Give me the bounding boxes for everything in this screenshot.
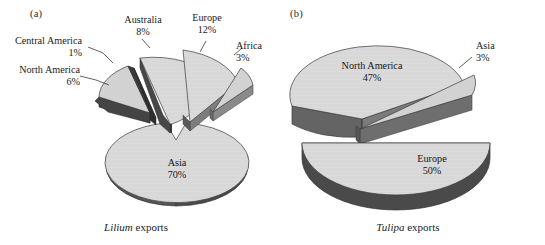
callout-a-central-america: Central America 1% xyxy=(15,35,82,58)
caption-a-species: Lilium xyxy=(104,221,133,233)
leader-line-b-asia xyxy=(459,57,472,68)
caption-b: Tulipa exports xyxy=(272,221,544,233)
callout-a-australia: Australia 8% xyxy=(108,14,178,37)
pie-chart-b xyxy=(272,0,544,245)
callout-a-north-america-region: North America xyxy=(19,64,80,75)
leader-line-central-america xyxy=(88,47,113,63)
caption-b-rest: exports xyxy=(404,221,439,233)
slice-label-a-asia-region: Asia xyxy=(168,157,187,168)
figure-pie-charts: (a) xyxy=(0,0,545,245)
callout-a-europe-region: Europe xyxy=(192,12,221,23)
callout-a-australia-pct: 8% xyxy=(108,26,178,38)
slice-label-a-asia-pct: 70% xyxy=(148,169,206,181)
slice-label-b-north-america-region: North America xyxy=(342,60,403,71)
slice-label-a-asia: Asia 70% xyxy=(148,157,206,181)
panel-a-lilium: (a) xyxy=(0,0,272,245)
callout-a-europe: Europe 12% xyxy=(178,12,236,35)
slice-label-b-europe: Europe 50% xyxy=(396,153,468,177)
callout-a-africa-region: Africa xyxy=(236,40,262,51)
callout-a-north-america-pct: 6% xyxy=(19,76,80,88)
callout-a-central-america-region: Central America xyxy=(15,35,82,46)
slice-label-b-europe-region: Europe xyxy=(417,153,446,164)
panel-b-tulipa: (b) North Ameri xyxy=(272,0,544,245)
callout-a-europe-pct: 12% xyxy=(178,24,236,36)
leader-line-north-america xyxy=(80,76,109,85)
caption-b-species: Tulipa xyxy=(376,221,404,233)
leader-line-australia xyxy=(142,39,150,48)
callout-a-africa-pct: 3% xyxy=(236,52,262,64)
slice-label-b-europe-pct: 50% xyxy=(396,165,468,177)
callout-a-north-america: North America 6% xyxy=(19,64,80,87)
callout-b-asia-region: Asia xyxy=(476,40,495,51)
callout-b-asia: Asia 3% xyxy=(476,40,495,63)
leader-line-europe xyxy=(200,41,206,52)
caption-a-rest: exports xyxy=(133,221,168,233)
slice-label-b-north-america: North America 47% xyxy=(312,60,432,84)
callout-b-asia-pct: 3% xyxy=(476,52,495,64)
callout-a-central-america-pct: 1% xyxy=(15,47,82,59)
callout-a-australia-region: Australia xyxy=(124,14,161,25)
slice-label-b-north-america-pct: 47% xyxy=(312,72,432,84)
callout-a-africa: Africa 3% xyxy=(236,40,262,63)
caption-a: Lilium exports xyxy=(0,221,272,233)
